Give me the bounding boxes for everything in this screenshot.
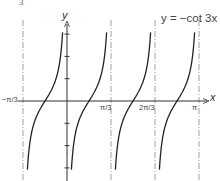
y-axis-label: y xyxy=(62,9,68,21)
cotangent-graph xyxy=(0,0,220,181)
chart-title: y = −cot 3x xyxy=(161,12,217,24)
x-axis-label: x xyxy=(210,91,216,103)
x-tick-label: π xyxy=(192,103,197,112)
axes xyxy=(18,21,209,181)
x-tick-label: 2π/3 xyxy=(139,103,155,112)
x-tick-label: π/3 xyxy=(100,103,111,112)
x-tick-label: −π/3 xyxy=(2,95,18,104)
